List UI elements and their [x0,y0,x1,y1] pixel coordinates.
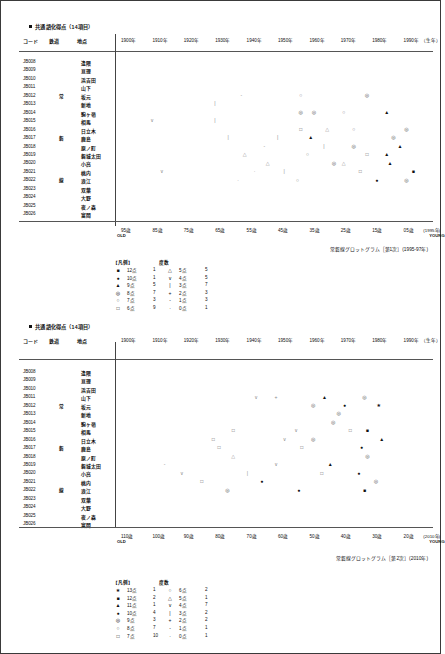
legend-count: 1 [153,602,156,607]
row-code: JB015 [23,428,36,433]
row-code: JB012 [23,403,36,408]
row-code: JB009 [23,377,36,382]
scatter-marker: ◎ [365,453,369,458]
x-axis-tick-age-7: 40歳 [341,533,351,539]
scatter-marker: ∨ [283,436,287,441]
row-code: JB013 [23,411,36,416]
scatter-marker: ■ [366,428,369,433]
legend-score: 13点 [127,587,137,593]
row-code: JB021 [23,479,36,484]
scatter-marker: ∨ [180,470,184,475]
row-code: JB011 [23,394,35,399]
legend-score: 9点 [127,617,135,623]
row-place: 日立木 [81,437,96,444]
scatter-marker: ● [260,479,263,484]
x-axis-tick-year-6: 1960年 [309,337,324,343]
scatter-marker: □ [320,470,323,475]
x-axis-tick-age-1: 100歳 [152,533,165,539]
legend-score: 6点 [179,587,187,593]
legend-symbol: ∨ [165,602,175,608]
legend-score: 3点 [179,610,187,616]
scatter-marker: ▲ [322,394,327,399]
row-place: 桃内 [81,479,91,486]
row-code: JB018 [23,454,36,459]
x-axis-tick-year-7: 1970年 [341,337,356,343]
column-header-railway: 鉄道 [49,337,59,344]
x-axis-tick-age-8: 30歳 [372,533,382,539]
row-place: 浪江 [81,487,91,494]
row-place: 双葉 [81,496,91,503]
scatter-marker: ▲ [328,462,333,467]
x-axis-tick-year-4: 1940年 [247,337,262,343]
legend-score: 7点 [127,633,135,639]
row-place: 原ノ町 [81,454,96,461]
scatter-marker: □ [232,428,235,433]
legend-header-count: 度数 [159,579,169,585]
row-place: 小高 [81,470,91,477]
x-axis-tick-year-8: 1980年 [372,337,387,343]
legend-score: 10点 [127,610,137,616]
column-header-code: コード [23,337,38,344]
scatter-marker: △ [231,453,235,458]
young-label: YOUNG [429,539,444,544]
row-place: 坂元 [81,403,91,410]
legend-symbol: - [165,625,175,631]
chart-section-sec2: 共通語化得点（14項目）コード鉄道地点1900年1910年1920年1930年1… [1,1,442,654]
legend-symbol: ▲ [113,602,123,608]
legend-score: 1点 [179,625,187,631]
legend-count: 10 [153,633,158,638]
scatter-marker: ∨ [254,394,258,399]
section-bullet-icon [29,325,32,328]
scatter-marker: ◎ [225,487,229,492]
x-axis-tick-year-2: 1920年 [184,337,199,343]
row-code: JB022 [23,487,36,492]
row-place: 山下 [81,394,91,401]
scatter-marker: ∨ [274,462,278,467]
row-code: JB026 [23,521,36,526]
section-title: 共通語化得点（14項目） [29,323,93,330]
legend-symbol: ★ [113,587,123,593]
x-axis-tick-age-3: 80歳 [215,533,225,539]
row-code: JB023 [23,496,36,501]
section-title-text: 共通語化得点（14項目） [35,324,93,330]
row-code: JB016 [23,437,36,442]
x-axis-tick-year-3: 1930年 [215,337,230,343]
old-label: OLD [117,539,126,544]
legend-score: 2点 [179,617,187,623]
legend-count: 2 [205,610,208,615]
scatter-marker: | [247,470,248,475]
scatter-marker: ◎ [362,394,366,399]
legend-count: 7 [153,625,156,630]
x-axis-tick-year-9: 1990年 [404,337,419,343]
legend-score: 11点 [127,602,137,608]
scatter-marker: ● [343,403,346,408]
row-railway: 線 [59,487,64,493]
x-axis-tick-year-0: 1900年 [121,337,136,343]
x-axis-tick-age-4: 70歳 [247,533,257,539]
legend-count: 4 [153,610,156,615]
x-axis-tick-year-5: 1950年 [278,337,293,343]
row-code: JB014 [23,420,36,425]
scatter-marker: ◎ [311,403,315,408]
legend-symbol: + [165,617,175,623]
scatter-marker: + [275,394,278,399]
scatter-marker: ◎ [331,419,335,424]
row-place: 亘理 [81,377,91,384]
legend-symbol: | [165,610,175,616]
scatter-marker: ▲ [379,436,384,441]
legend-count: 3 [153,617,156,622]
chart-caption: 常磐線グロットグラム［第2次］(2010年) [336,554,428,561]
legend-count: 2 [205,587,208,592]
x-axis-tick-year-1: 1910年 [152,337,167,343]
row-place: 鹿島 [81,445,91,452]
plot-left-divider [115,342,116,528]
legend-symbol: · [165,633,175,639]
legend-count: 1 [205,625,208,630]
legend-score: 8点 [127,625,135,631]
scatter-marker: ● [360,445,363,450]
legend-count: 1 [205,595,208,600]
row-code: JB019 [23,462,36,467]
header-rule [19,359,433,360]
scatter-marker: ◎ [337,411,341,416]
